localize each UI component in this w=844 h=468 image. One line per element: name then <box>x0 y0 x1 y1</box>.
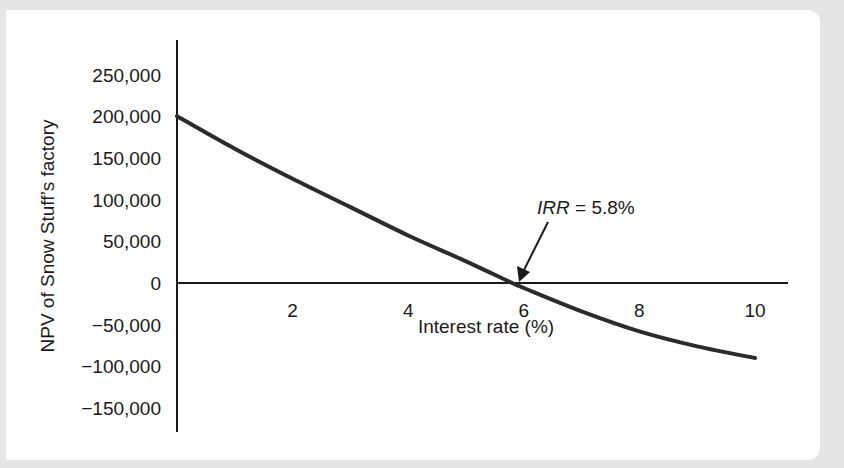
irr-arrow <box>517 222 548 282</box>
y-tick-label: −150,000 <box>81 398 161 419</box>
y-tick-label: 50,000 <box>103 231 161 252</box>
y-tick-label: 0 <box>150 273 161 294</box>
x-tick-label: 8 <box>634 300 645 321</box>
y-tick-label: −100,000 <box>81 356 161 377</box>
npv-chart: 250,000200,000150,000100,00050,0000−50,0… <box>0 0 844 468</box>
irr-annotation: IRR = 5.8% <box>537 197 635 218</box>
y-tick-label: 200,000 <box>92 106 161 127</box>
irr-annotation-value: = 5.8% <box>570 197 635 218</box>
y-tick-label: −50,000 <box>92 315 161 336</box>
x-tick-label: 4 <box>403 300 414 321</box>
y-tick-label: 250,000 <box>92 65 161 86</box>
y-tick-labels: 250,000200,000150,000100,00050,0000−50,0… <box>81 65 161 420</box>
arrowhead-icon <box>517 266 530 282</box>
y-tick-label: 100,000 <box>92 190 161 211</box>
irr-annotation-italic: IRR <box>537 197 570 218</box>
x-tick-label: 2 <box>287 300 298 321</box>
y-axis-label: NPV of Snow Stuff’s factory <box>37 119 58 353</box>
x-tick-label: 10 <box>744 300 765 321</box>
x-axis-label: Interest rate (%) <box>418 316 554 337</box>
y-tick-label: 150,000 <box>92 148 161 169</box>
